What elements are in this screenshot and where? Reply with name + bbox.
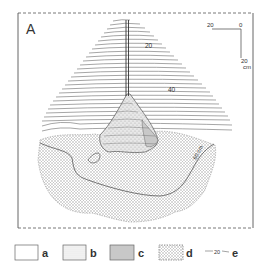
legend-item-a: a bbox=[15, 245, 49, 260]
legend-contour-sample: 20 bbox=[214, 249, 220, 255]
legend-item-b: b bbox=[63, 245, 97, 260]
legend-key-a: a bbox=[42, 247, 49, 259]
legend-key-c: c bbox=[138, 247, 144, 259]
scale-unit-label: cm bbox=[243, 64, 251, 70]
scale-origin-label: 0 bbox=[239, 22, 243, 28]
scale-bar: 20 0 20 cm bbox=[207, 22, 251, 70]
legend-item-e: 20 e bbox=[205, 247, 238, 259]
legend-item-d: d bbox=[159, 245, 193, 260]
legend-key-d: d bbox=[186, 247, 193, 259]
legend: a b c d 20 e bbox=[15, 245, 238, 260]
panel-label: A bbox=[26, 21, 36, 37]
contour-label-20: 20 bbox=[145, 42, 153, 49]
diagram-canvas: A 20 40 60 cm 20 0 20 cm a b c d 20 bbox=[0, 0, 269, 277]
legend-key-e: e bbox=[232, 247, 238, 259]
contour-label-40: 40 bbox=[168, 86, 176, 93]
legend-item-c: c bbox=[110, 245, 144, 260]
scale-left-label: 20 bbox=[207, 22, 214, 28]
legend-key-b: b bbox=[90, 247, 97, 259]
